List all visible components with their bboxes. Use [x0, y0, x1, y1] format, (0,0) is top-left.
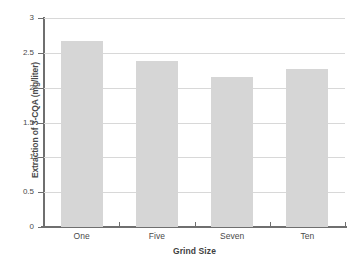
y-tick-label: 0.5 — [8, 188, 34, 196]
x-tick-mark — [119, 222, 120, 228]
bar — [211, 77, 253, 227]
x-axis-title: Grind Size — [44, 246, 345, 256]
bar-chart: Extraction of 3-CQA (mg/liter) 00.511.52… — [0, 0, 360, 262]
bar — [136, 61, 178, 227]
y-tick-label: 0 — [8, 223, 34, 231]
y-tick-label: 1.5 — [8, 119, 34, 127]
bar — [61, 41, 103, 227]
x-tick-mark — [195, 222, 196, 228]
y-tick-mark — [38, 192, 44, 193]
y-tick-label: 2 — [8, 84, 34, 92]
y-tick-label: 2.5 — [8, 49, 34, 57]
x-tick-mark — [270, 222, 271, 228]
x-tick-mark — [345, 222, 346, 228]
x-tick-label: Seven — [197, 231, 267, 241]
bar — [286, 69, 328, 227]
x-tick-label: Ten — [272, 231, 342, 241]
y-tick-label: 1 — [8, 153, 34, 161]
gridline — [44, 18, 345, 19]
y-tick-mark — [38, 18, 44, 19]
x-tick-label: Five — [122, 231, 192, 241]
y-tick-mark — [38, 123, 44, 124]
y-tick-mark — [38, 53, 44, 54]
y-tick-mark — [38, 88, 44, 89]
x-tick-mark — [44, 222, 45, 228]
y-tick-mark — [38, 157, 44, 158]
plot-area — [44, 18, 345, 227]
y-tick-label: 3 — [8, 14, 34, 22]
x-tick-label: One — [47, 231, 117, 241]
